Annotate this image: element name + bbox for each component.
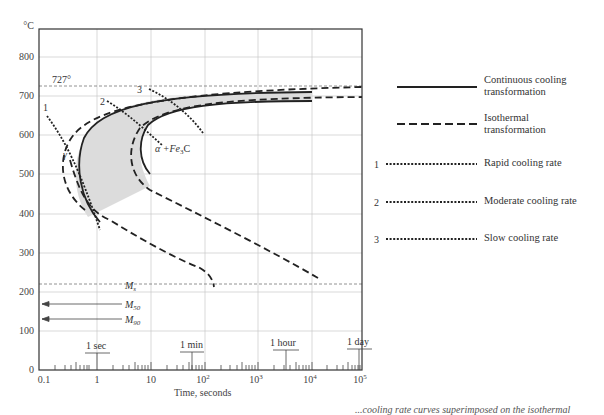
svg-text:600: 600	[19, 129, 34, 140]
x-minor-ticks	[55, 362, 360, 370]
legend: Continuous coolingtransformation Isother…	[368, 0, 604, 300]
svg-text:400: 400	[19, 208, 34, 219]
curve-1-label: 1	[43, 102, 48, 113]
ms-label: Ms	[124, 280, 136, 293]
svg-text:102: 102	[196, 373, 210, 385]
svg-text:104: 104	[303, 373, 317, 385]
svg-text:200: 200	[19, 286, 34, 297]
figure-caption-fragment: ...cooling rate curves superimposed on t…	[355, 404, 570, 415]
svg-text:10: 10	[146, 374, 156, 385]
svg-text:500: 500	[19, 168, 34, 179]
legend-continuous-cooling: Continuous coolingtransformation	[484, 74, 567, 98]
time-markers	[85, 349, 372, 370]
legend-isothermal: Isothermaltransformation	[484, 112, 546, 136]
svg-text:700: 700	[19, 90, 34, 101]
eutectoid-label: 727°	[52, 74, 71, 85]
curve-3-label: 3	[137, 84, 142, 95]
legend-rapid-cooling: Rapid cooling rate	[484, 157, 562, 169]
y-unit: °C	[23, 20, 34, 31]
svg-text:105: 105	[353, 373, 367, 385]
m50-label: M50	[124, 299, 141, 312]
svg-text:0: 0	[29, 364, 34, 375]
legend-slow-cooling: Slow cooling rate	[484, 232, 558, 244]
marker-1-sec: 1 sec	[86, 340, 107, 351]
legend-moderate-cooling: Moderate cooling rate	[484, 195, 577, 207]
x-axis-title: Time, seconds	[174, 387, 232, 398]
curve-2-label: 2	[100, 96, 105, 107]
m90-label: M90	[124, 314, 141, 327]
marker-1-min: 1 min	[180, 339, 203, 350]
x-axis-labels: 0.1 1 10 102 103 104 105	[38, 373, 368, 385]
gamma-label: γ	[63, 149, 68, 160]
marker-1-hour: 1 hour	[270, 337, 297, 348]
svg-text:1: 1	[95, 374, 100, 385]
alpha-fe3c-label: α +Fe3C	[155, 143, 191, 156]
svg-text:800: 800	[19, 51, 34, 62]
martensite-arrows	[42, 302, 122, 322]
svg-text:103: 103	[249, 373, 263, 385]
y-axis-labels: °C 0 100 200 300 400 500 600 700 800	[19, 20, 34, 375]
svg-text:0.1: 0.1	[38, 374, 51, 385]
svg-text:100: 100	[19, 325, 34, 336]
svg-text:300: 300	[19, 247, 34, 258]
transformation-band	[76, 92, 312, 217]
marker-1-day: 1 day	[347, 336, 369, 347]
